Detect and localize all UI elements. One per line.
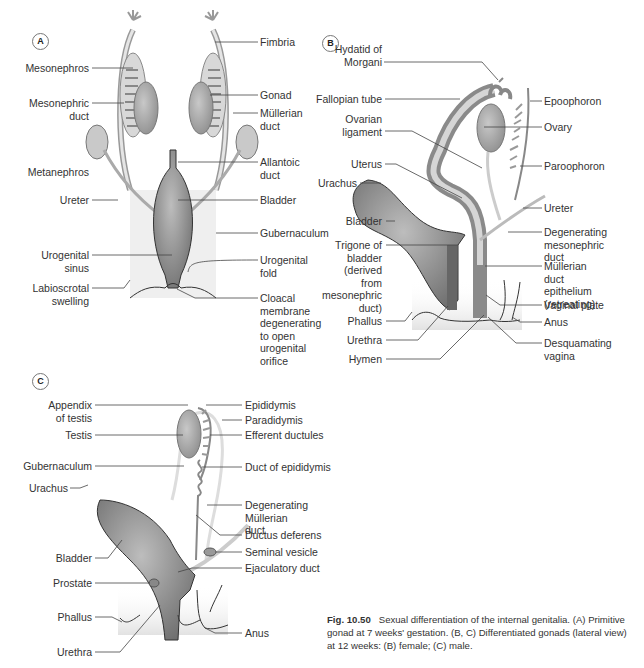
label-mullerian-duct-a: Müllerian duct	[260, 107, 310, 132]
label-anus-c: Anus	[245, 627, 269, 640]
label-paroophoron: Paroophoron	[544, 160, 605, 173]
label-allantoic-duct: Allantoic duct	[260, 156, 305, 181]
label-gubernaculum-c: Gubernaculum	[23, 460, 92, 473]
figure-caption: Fig. 10.50 Sexual differentiation of the…	[327, 613, 627, 652]
label-anus-b: Anus	[544, 316, 568, 329]
label-paradidymis: Paradidymis	[245, 414, 303, 427]
label-bladder-a: Bladder	[260, 194, 296, 207]
label-trigone-of-bladder: Trigone of bladder (derived from mesonep…	[322, 239, 382, 314]
label-ovary: Ovary	[544, 121, 572, 134]
figure-caption-text: Sexual differentiation of the internal g…	[327, 614, 627, 651]
label-efferent-ductules: Efferent ductules	[245, 429, 324, 442]
label-phallus-b: Phallus	[348, 315, 382, 328]
label-gubernaculum-a: Gubernaculum	[260, 227, 329, 240]
label-urachus-c: Urachus	[29, 482, 68, 495]
label-uterus: Uterus	[351, 158, 382, 171]
label-ureter-b: Ureter	[544, 202, 573, 215]
panel-c-art	[97, 408, 248, 640]
label-urachus-b: Urachus	[318, 177, 357, 190]
label-bladder-c: Bladder	[56, 552, 92, 565]
label-fimbria: Fimbria	[260, 36, 295, 49]
label-labioscrotal-swelling: Labioscrotal swelling	[29, 282, 89, 307]
label-ureter-a: Ureter	[60, 194, 89, 207]
label-phallus-c: Phallus	[58, 611, 92, 624]
label-bladder-b: Bladder	[346, 215, 382, 228]
label-urogenital-sinus: Urogenital sinus	[39, 249, 89, 274]
label-urethra-c: Urethra	[57, 646, 92, 659]
label-epididymis: Epididymis	[245, 399, 296, 412]
label-testis: Testis	[65, 429, 92, 442]
label-duct-of-epididymis: Duct of epididymis	[245, 461, 331, 474]
panel-c-badge: C	[32, 373, 49, 390]
label-urethra-b: Urethra	[347, 334, 382, 347]
label-ductus-deferens: Ductus deferens	[245, 529, 321, 542]
label-metanephros: Metanephros	[28, 166, 89, 179]
label-degenerating-mesonephric-duct: Degenerating mesonephric duct	[544, 226, 616, 264]
label-mesonephros: Mesonephros	[25, 62, 89, 75]
label-gonad: Gonad	[260, 89, 292, 102]
label-hydatid-of-morgani: Hydatid of Morgani	[322, 43, 382, 68]
label-ejaculatory-duct: Ejaculatory duct	[245, 562, 320, 575]
label-ovarian-ligament: Ovarian ligament	[332, 113, 382, 138]
label-urogenital-fold: Urogenital fold	[260, 254, 310, 279]
label-hymen: Hymen	[349, 353, 382, 366]
label-cloacal-membrane: Cloacal membrane degenerating to open ur…	[260, 292, 322, 367]
label-mesonephric-duct: Mesonephric duct	[29, 97, 89, 122]
label-fallopian-tube: Fallopian tube	[316, 93, 382, 106]
label-appendix-of-testis: Appendix of testis	[37, 399, 92, 424]
label-epoophoron: Epoophoron	[544, 95, 601, 108]
label-vaginal-plate: Vaginal plate	[544, 299, 604, 312]
label-prostate: Prostate	[53, 577, 92, 590]
label-desquamating-vagina: Desquamating vagina	[544, 337, 604, 362]
label-seminal-vesicle: Seminal vesicle	[245, 546, 318, 559]
panel-a-badge: A	[32, 33, 49, 50]
figure-number: Fig. 10.50	[327, 614, 371, 625]
